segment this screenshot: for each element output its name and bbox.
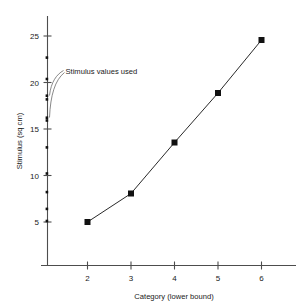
x-tick-label-6: 6 [259, 274, 264, 283]
x-tick-label-4: 4 [172, 274, 177, 283]
data-point-6 [259, 37, 265, 43]
data-point-2 [85, 219, 91, 225]
stimulus-dot-16-2 [46, 116, 49, 119]
data-series-markers [85, 37, 265, 225]
x-axis-title: Category (lower bound) [134, 292, 214, 301]
annotation-leader-lines [50, 71, 65, 118]
stimulus-dot-18-6 [46, 94, 49, 97]
y-tick-label-15: 15 [30, 125, 39, 134]
stimulus-dot-22-7 [46, 56, 49, 59]
x-tick-label-2: 2 [85, 274, 90, 283]
stimulus-dot-8-2 [46, 191, 49, 194]
leader-line-lower [50, 73, 65, 118]
chart-figure: 5 10 15 20 25 2 3 4 5 6 [0, 0, 304, 307]
chart-canvas: 5 10 15 20 25 2 3 4 5 6 [0, 0, 304, 307]
stimulus-dot-15-9 [46, 119, 49, 122]
annotation-label: Stimulus values used [66, 67, 138, 76]
stimulus-dot-10-2 [46, 172, 49, 175]
y-tick-labels: 5 10 15 20 25 [30, 32, 39, 227]
x-tick-labels: 2 3 4 5 6 [85, 274, 264, 283]
stimulus-dot-18-2 [46, 98, 49, 101]
data-point-4 [172, 140, 178, 146]
x-tick-label-3: 3 [129, 274, 134, 283]
y-tick-label-20: 20 [30, 79, 39, 88]
stimulus-dot-20-4 [46, 78, 49, 81]
y-tick-label-25: 25 [30, 32, 39, 41]
stimulus-dot-6-4 [46, 208, 49, 211]
y-tick-label-10: 10 [30, 172, 39, 181]
y-axis-title: Stimulus (sq cm) [15, 112, 24, 169]
data-point-3 [128, 191, 134, 197]
x-tick-label-5: 5 [216, 274, 221, 283]
data-point-5 [215, 90, 221, 96]
stimulus-dot-13-0 [46, 146, 49, 149]
stimulus-dot-5-1 [46, 220, 49, 223]
y-tick-label-5: 5 [35, 218, 40, 227]
